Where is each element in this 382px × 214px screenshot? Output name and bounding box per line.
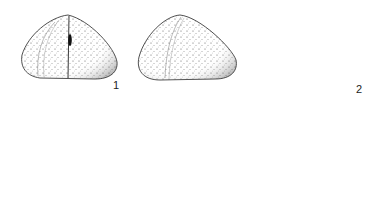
fig1-lateral-view — [22, 15, 117, 79]
illustration-plate — [0, 0, 382, 214]
fig1-oblique-view — [138, 15, 236, 80]
figure-label-1: 1 — [113, 80, 119, 91]
figure-label-2: 2 — [356, 84, 362, 95]
